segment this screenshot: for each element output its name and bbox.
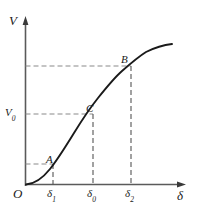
point-label-c: C: [86, 103, 93, 114]
y-tick-v0-base: V: [5, 106, 12, 118]
x-tick-delta0-subscript: 0: [92, 195, 96, 204]
y-axis-label: V: [9, 14, 17, 27]
figure-container: V δ O V0 δ1 δ0 δ2 A C B: [0, 0, 197, 207]
y-tick-v0-subscript: 0: [12, 114, 16, 123]
x-tick-label-delta2: δ2: [125, 188, 134, 202]
x-tick-label-delta1: δ1: [47, 188, 56, 202]
x-axis-label: δ: [177, 189, 183, 202]
x-tick-delta1-subscript: 1: [52, 195, 56, 204]
point-label-a: A: [46, 154, 53, 165]
origin-label: O: [13, 187, 22, 200]
y-axis: [23, 16, 29, 186]
y-tick-label-v0: V0: [5, 107, 15, 121]
x-tick-delta2-subscript: 2: [130, 195, 134, 204]
chart-plot-area: [0, 0, 197, 207]
x-tick-label-delta0: δ0: [87, 188, 96, 202]
point-label-b: B: [121, 54, 128, 65]
